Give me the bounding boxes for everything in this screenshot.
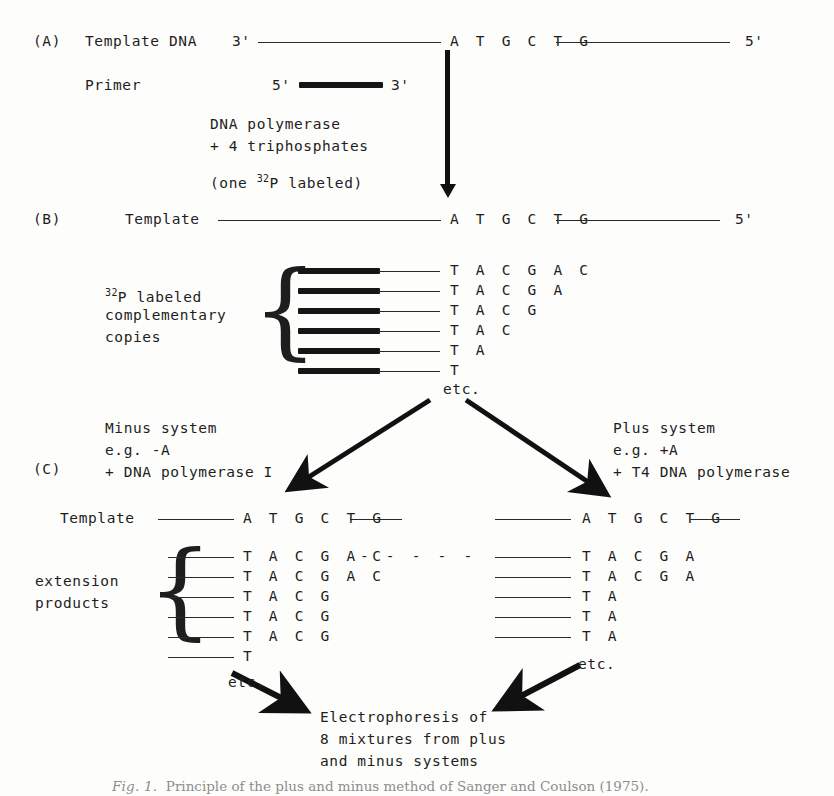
minus-products-brace: { — [147, 538, 213, 642]
product-sequence: T A C G — [243, 587, 334, 606]
figure-caption: Fig. 1. Principle of the plus and minus … — [112, 778, 649, 794]
branch-arrows — [0, 0, 834, 796]
arrow-plus-to-outcome — [502, 665, 580, 706]
plus-branch-line-2: e.g. +A — [613, 439, 678, 461]
minus-branch-line-1: Minus system — [105, 417, 217, 439]
outcome-line-3: and minus systems — [320, 750, 479, 772]
plus-etc: etc. — [578, 655, 615, 674]
caption-text: Principle of the plus and minus method o… — [166, 778, 649, 794]
product-line — [168, 657, 234, 658]
arrow-to-plus-branch — [466, 400, 603, 492]
product-sequence: T A — [582, 587, 621, 606]
product-line — [168, 617, 234, 618]
plus-branch-line-1: Plus system — [613, 417, 716, 439]
plus-template-line-right — [690, 519, 740, 520]
plus-template-line-left — [495, 519, 571, 520]
product-sequence: T A — [582, 607, 621, 626]
product-sequence: T — [243, 647, 256, 666]
product-line — [495, 637, 571, 638]
panel-c-label: (C) — [33, 460, 61, 479]
caption-spacer — [157, 778, 166, 794]
plus-branch-line-3: + T4 DNA polymerase — [613, 461, 790, 483]
minus-etc: etc. — [228, 673, 265, 692]
product-sequence: T A C G A C — [243, 567, 385, 586]
product-line — [495, 597, 571, 598]
outcome-line-1: Electrophoresis of — [320, 706, 488, 728]
product-line — [168, 557, 234, 558]
product-line — [495, 557, 571, 558]
product-sequence: T A C G A — [582, 547, 698, 566]
product-line — [495, 617, 571, 618]
minus-template-line-right — [350, 519, 402, 520]
product-sequence: T A C G A — [582, 567, 698, 586]
product-line — [495, 577, 571, 578]
minus-products-label-line-2: products — [35, 592, 110, 614]
arrow-to-minus-branch — [293, 400, 430, 487]
product-sequence: T A C G — [243, 607, 334, 626]
minus-template-label: Template — [60, 509, 135, 528]
minus-template-line-left — [158, 519, 234, 520]
minus-products-label-line-1: extension — [35, 570, 119, 592]
product-line — [168, 597, 234, 598]
product-sequence: T A C G — [243, 627, 334, 646]
product-sequence: T A — [582, 627, 621, 646]
product-line — [168, 637, 234, 638]
caption-figure-number: Fig. 1. — [112, 778, 157, 794]
figure-canvas: (A) Template DNA 3' A T G C T G 5' Prime… — [0, 0, 834, 796]
minus-branch-line-2: e.g. -A — [105, 439, 170, 461]
outcome-line-2: 8 mixtures from plus — [320, 728, 507, 750]
product-line — [168, 577, 234, 578]
minus-branch-line-3: + DNA polymerase I — [105, 461, 273, 483]
product-dashes: - - - - - — [360, 547, 476, 566]
